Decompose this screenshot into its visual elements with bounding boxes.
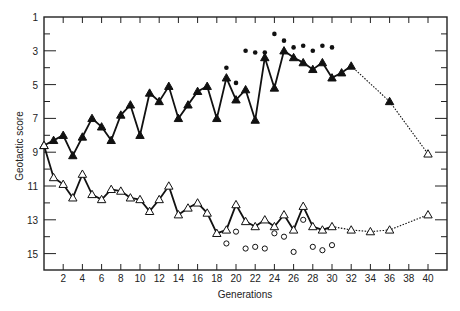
data-point-open-triangle bbox=[107, 185, 115, 192]
data-point-filled-triangle bbox=[280, 47, 288, 54]
data-point-open-triangle bbox=[366, 227, 374, 234]
data-point-open-triangle bbox=[40, 141, 48, 148]
data-point-filled-triangle bbox=[69, 151, 77, 158]
data-point-filled-triangle bbox=[193, 87, 201, 94]
series-markers bbox=[40, 32, 432, 255]
data-point-filled-circle bbox=[311, 49, 316, 54]
y-tick-label: 1 bbox=[32, 12, 38, 23]
data-point-open-triangle bbox=[193, 199, 201, 206]
data-point-open-triangle bbox=[88, 190, 96, 197]
x-tick-label: 40 bbox=[422, 273, 434, 284]
data-point-open-triangle bbox=[184, 204, 192, 211]
geotactic-chart: 2468101214161820222426283032343638401357… bbox=[0, 0, 460, 311]
data-point-open-circle bbox=[243, 246, 248, 251]
data-point-open-triangle bbox=[347, 226, 355, 233]
y-axis-title: Geotactic score bbox=[14, 111, 25, 181]
y-tick-label: 3 bbox=[32, 46, 38, 57]
series-line-2 bbox=[390, 102, 428, 154]
x-tick-label: 14 bbox=[173, 273, 185, 284]
data-point-filled-triangle bbox=[49, 136, 57, 143]
data-point-open-circle bbox=[262, 246, 267, 251]
data-point-filled-circle bbox=[301, 43, 306, 48]
x-tick-label: 4 bbox=[80, 273, 86, 284]
data-point-open-triangle bbox=[165, 182, 173, 189]
data-point-filled-circle bbox=[291, 45, 296, 50]
y-tick-label: 15 bbox=[27, 249, 39, 260]
data-point-filled-triangle bbox=[213, 114, 221, 121]
data-point-filled-triangle bbox=[347, 62, 355, 69]
data-point-open-circle bbox=[281, 234, 286, 239]
y-tick-label: 9 bbox=[32, 147, 38, 158]
x-axis-title: Generations bbox=[218, 289, 272, 300]
x-tick-label: 30 bbox=[326, 273, 338, 284]
data-point-filled-triangle bbox=[203, 82, 211, 89]
x-tick-label: 28 bbox=[307, 273, 319, 284]
data-point-open-circle bbox=[301, 217, 306, 222]
x-tick-label: 20 bbox=[230, 273, 242, 284]
data-point-filled-circle bbox=[282, 38, 287, 43]
data-point-filled-triangle bbox=[126, 101, 134, 108]
data-point-filled-triangle bbox=[318, 58, 326, 65]
x-tick-label: 16 bbox=[192, 273, 204, 284]
data-point-filled-circle bbox=[263, 50, 268, 55]
x-tick-label: 18 bbox=[211, 273, 223, 284]
y-tick-label: 5 bbox=[32, 80, 38, 91]
data-point-open-circle bbox=[329, 243, 334, 248]
x-tick-label: 36 bbox=[384, 273, 396, 284]
data-point-open-circle bbox=[224, 241, 229, 246]
y-tick-label: 13 bbox=[27, 215, 39, 226]
data-point-filled-triangle bbox=[136, 131, 144, 138]
data-point-open-triangle bbox=[328, 222, 336, 229]
x-tick-label: 2 bbox=[60, 273, 66, 284]
data-point-open-triangle bbox=[309, 222, 317, 229]
data-point-open-circle bbox=[233, 229, 238, 234]
data-point-open-circle bbox=[272, 231, 277, 236]
x-tick-label: 22 bbox=[250, 273, 262, 284]
data-point-open-triangle bbox=[299, 202, 307, 209]
x-tick-label: 24 bbox=[269, 273, 281, 284]
x-tick-label: 32 bbox=[346, 273, 358, 284]
data-point-filled-triangle bbox=[251, 116, 259, 123]
series-line-4 bbox=[332, 215, 428, 232]
data-point-filled-triangle bbox=[299, 58, 307, 65]
data-point-open-circle bbox=[310, 244, 315, 249]
x-tick-label: 34 bbox=[365, 273, 377, 284]
x-tick-label: 38 bbox=[403, 273, 415, 284]
series-line-3 bbox=[44, 145, 332, 233]
series-line-0 bbox=[44, 51, 351, 156]
series-line-1 bbox=[351, 66, 389, 101]
data-point-filled-triangle bbox=[78, 133, 86, 140]
data-point-open-triangle bbox=[241, 217, 249, 224]
x-tick-label: 10 bbox=[134, 273, 146, 284]
x-tick-label: 26 bbox=[288, 273, 300, 284]
x-tick-label: 12 bbox=[154, 273, 166, 284]
data-point-filled-triangle bbox=[165, 82, 173, 89]
data-point-filled-circle bbox=[224, 65, 229, 70]
data-point-filled-triangle bbox=[241, 85, 249, 92]
data-point-filled-circle bbox=[234, 81, 239, 86]
data-point-filled-triangle bbox=[88, 114, 96, 121]
data-point-filled-triangle bbox=[145, 89, 153, 96]
axis-tick-labels: 2468101214161820222426283032343638401357… bbox=[27, 12, 434, 284]
data-point-open-triangle bbox=[424, 211, 432, 218]
data-point-filled-circle bbox=[253, 50, 258, 55]
data-point-filled-triangle bbox=[59, 131, 67, 138]
data-point-filled-triangle bbox=[222, 74, 230, 81]
y-tick-label: 11 bbox=[28, 181, 39, 192]
data-point-open-triangle bbox=[261, 216, 269, 223]
data-point-open-triangle bbox=[280, 211, 288, 218]
data-point-filled-circle bbox=[330, 45, 335, 50]
data-point-filled-circle bbox=[272, 32, 277, 37]
x-tick-label: 8 bbox=[118, 273, 124, 284]
data-point-filled-circle bbox=[243, 49, 248, 54]
data-point-open-triangle bbox=[49, 173, 57, 180]
data-point-filled-circle bbox=[320, 43, 325, 48]
data-point-open-triangle bbox=[385, 226, 393, 233]
y-tick-label: 7 bbox=[32, 113, 38, 124]
data-point-open-triangle bbox=[222, 226, 230, 233]
data-point-open-triangle bbox=[78, 170, 86, 177]
data-point-open-circle bbox=[291, 249, 296, 254]
data-point-open-circle bbox=[320, 248, 325, 253]
data-point-open-circle bbox=[253, 244, 258, 249]
x-tick-label: 6 bbox=[99, 273, 105, 284]
